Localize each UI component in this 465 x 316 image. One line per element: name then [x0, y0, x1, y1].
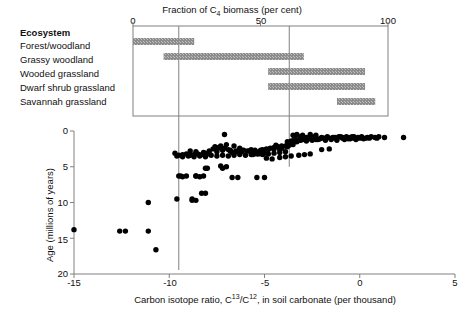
scatter-point [205, 165, 210, 170]
scatter-point [269, 156, 274, 161]
scatter-point [330, 135, 335, 140]
scatter-point [285, 139, 290, 144]
scatter-point [201, 173, 206, 178]
scatter-point [186, 153, 191, 158]
scatter-point [235, 175, 240, 180]
scatter-point [220, 165, 225, 170]
ecosystem-bar-3 [268, 83, 365, 90]
scatter-point [262, 150, 267, 155]
scatter-point [180, 154, 185, 159]
scatter-point [146, 200, 151, 205]
scatter-point [338, 134, 343, 139]
scatter-point [273, 143, 278, 148]
scatter-point [226, 153, 231, 158]
scatter-point [193, 198, 198, 203]
scatter-point [256, 151, 261, 156]
scatter-point [294, 132, 299, 137]
scatter-point [220, 153, 225, 158]
scatter-point [319, 147, 324, 152]
scatter-point [228, 148, 233, 153]
scatter-point [285, 144, 290, 149]
scatter-point [277, 155, 282, 160]
scatter-point [262, 175, 267, 180]
scatter-point [359, 135, 364, 140]
scatter-point [229, 175, 234, 180]
scatter-point [327, 146, 332, 151]
scatter-point [283, 149, 288, 154]
ecosystem-bar-2 [268, 68, 365, 75]
ecosystem-bar-4 [337, 98, 375, 105]
scatter-point [71, 227, 76, 232]
scatter-point [302, 152, 307, 157]
scatter-point [308, 151, 313, 156]
scatter-point [254, 175, 259, 180]
scatter-point [233, 148, 238, 153]
scatter-point [239, 149, 244, 154]
scatter-point [174, 196, 179, 201]
scatter-point [193, 149, 198, 154]
scatter-point [344, 135, 349, 140]
ecosystem-bar-1 [164, 53, 304, 60]
scatter-point [382, 135, 387, 140]
scatter-point [368, 134, 373, 139]
scatter-point [296, 153, 301, 158]
scatter-point [216, 145, 221, 150]
scatter-point [123, 228, 128, 233]
scatter-point [153, 247, 158, 252]
scatter-point [313, 133, 318, 138]
scatter-point [224, 142, 229, 147]
scatter-point [188, 148, 193, 153]
figure-panel: Fraction of C4 biomass (per cent) Ecosys… [0, 0, 465, 316]
scatter-point [201, 150, 206, 155]
scatter-point [207, 148, 212, 153]
scatter-point [222, 132, 227, 137]
scatter-point [279, 143, 284, 148]
figure-graphics [0, 0, 465, 316]
scatter-point [349, 134, 354, 139]
scatter-point [250, 152, 255, 157]
scatter-point [325, 134, 330, 139]
scatter-point [308, 132, 313, 137]
scatter-point [146, 228, 151, 233]
scatter-point [174, 153, 179, 158]
scatter-point [376, 134, 381, 139]
scatter-point [231, 143, 236, 148]
scatter-point [300, 133, 305, 138]
scatter-point [117, 228, 122, 233]
scatter-point [401, 135, 406, 140]
scatter-point [319, 135, 324, 140]
ecosystem-bar-0 [133, 38, 194, 45]
scatter-point [264, 155, 269, 160]
scatter-point [191, 154, 196, 159]
scatter-point [184, 173, 189, 178]
scatter-point [288, 153, 293, 158]
scatter-point [203, 191, 208, 196]
scatter-point [283, 154, 288, 159]
